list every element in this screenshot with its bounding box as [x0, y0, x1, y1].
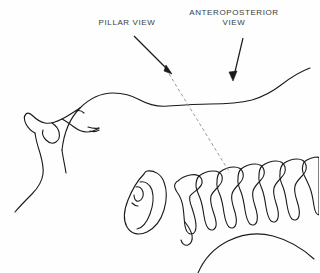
ear-tragus-path: [134, 187, 143, 201]
nose-profile-path: [25, 108, 81, 133]
anatomical-illustration-figure: PILLAR VIEW ANTEROPOSTERIORVIEW: [0, 0, 319, 273]
cervical-vertebra-1-path: [175, 175, 202, 234]
anteroposterior-view-arrow: [229, 38, 243, 81]
pillar-view-arrow: [134, 36, 172, 74]
anteroposterior-view-label-line1: ANTEROPOSTERIOR: [189, 8, 278, 17]
pillar-projection-axis: [166, 69, 230, 173]
neck-contour-path: [62, 150, 66, 173]
cervical-vertebra-5-path: [259, 161, 286, 222]
shoulder-contour-path: [198, 234, 314, 273]
cranium-outline-path: [62, 68, 310, 150]
illustration-canvas: [0, 0, 319, 273]
cervical-vertebra-2-path: [196, 171, 222, 230]
cervical-vertebra-4-path: [238, 164, 265, 225]
ear-lobule-detail-path: [132, 203, 138, 206]
nostril-path: [43, 123, 60, 143]
anteroposterior-view-label: ANTEROPOSTERIORVIEW: [182, 8, 286, 28]
mouth-path: [62, 119, 99, 132]
chin-jaw-contour-path: [15, 133, 43, 212]
pillar-view-label: PILLAR VIEW: [88, 18, 166, 28]
cervical-vertebra-7-path: [303, 157, 320, 215]
lip-corner-path: [88, 127, 99, 128]
ear-outer-path: [124, 171, 166, 234]
anteroposterior-view-label-line2: VIEW: [223, 18, 246, 27]
cervical-vertebra-3-path: [217, 167, 244, 228]
ear-inner-path: [137, 182, 153, 229]
